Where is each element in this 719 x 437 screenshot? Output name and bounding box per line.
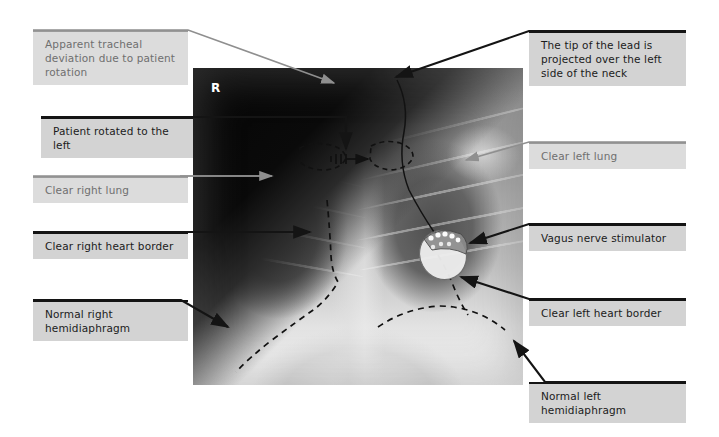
label-clear-left-lung: Clear left lung <box>529 142 686 169</box>
leader-normal-left-hemidiaphragm <box>514 341 686 382</box>
annotated-chest-xray-figure: R Apparent tracheal deviation due to pat… <box>0 0 719 437</box>
label-patient-rotated-left: Patient rotated to the left <box>41 117 193 158</box>
chest-xray-image: R <box>193 68 523 385</box>
label-lead-tip-left-neck: The tip of the lead is projected over th… <box>529 31 686 86</box>
label-clear-right-heart-border: Clear right heart border <box>33 232 188 259</box>
label-clear-right-lung: Clear right lung <box>33 176 188 203</box>
label-clear-left-heart-border: Clear left heart border <box>529 299 686 326</box>
label-normal-left-hemidiaphragm: Normal left hemidiaphragm <box>529 382 686 423</box>
label-vagus-nerve-stimulator: Vagus nerve stimulator <box>529 224 686 251</box>
label-apparent-tracheal-deviation: Apparent tracheal deviation due to patie… <box>33 30 188 85</box>
orientation-marker-r: R <box>211 81 220 95</box>
xray-vignette <box>193 68 523 385</box>
label-normal-right-hemidiaphragm: Normal right hemidiaphragm <box>33 300 188 341</box>
